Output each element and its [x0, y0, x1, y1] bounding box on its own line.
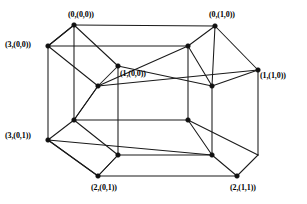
vertex-tr-inner	[186, 44, 191, 49]
edge-group-top-right-diamond	[188, 26, 258, 86]
edge-br-diag-a	[188, 120, 212, 155]
edge-group-top-left-diamond	[48, 25, 118, 86]
vertex-label-bottom-left: (2,(0,1))	[91, 183, 117, 192]
edge-tr-diag-c	[188, 46, 212, 86]
graph-drawing	[0, 0, 307, 204]
edge-br-diag-c	[212, 155, 237, 176]
edge-outer-top	[74, 25, 215, 26]
edge-connector-left-bottom	[48, 140, 212, 155]
vertex-bl-inner2	[116, 153, 121, 158]
vertex-left-upper	[46, 44, 51, 49]
vertex-label-center-inner: (1,(0,0))	[120, 69, 146, 78]
edge-group-bottom-left-diamond	[48, 120, 118, 176]
edge-tl-diag-c	[98, 66, 118, 86]
vertex-center-inner	[116, 64, 121, 69]
edge-tr-diag-a	[188, 26, 215, 46]
vertex-tl-inner	[96, 84, 101, 89]
edge-group-long-connectors	[48, 25, 258, 176]
vertex-label-top-right: (0,(1,0))	[209, 10, 235, 19]
vertex-bottom-left	[96, 174, 101, 179]
vertex-bl-inner	[72, 118, 77, 123]
edge-group-outer-frame	[48, 25, 258, 176]
vertex-bottom-right	[235, 174, 240, 179]
vertex-label-left-upper: (3,(0,0))	[5, 40, 31, 49]
edge-br-diag-b	[188, 120, 258, 155]
edge-tr-diag-b	[212, 26, 215, 86]
vertex-top-right	[213, 24, 218, 29]
vertex-label-top-left: (0,(0,0))	[68, 10, 94, 19]
figure-canvas: (0,(0,0)) (0,(1,0)) (3,(0,0)) (3,(0,1)) …	[0, 0, 307, 204]
edge-connector-mid	[74, 86, 98, 120]
edge-bl-diag-b	[74, 120, 118, 155]
vertex-br-inner	[186, 118, 191, 123]
edge-bl-diag-a	[48, 120, 74, 140]
edge-tl-diag-d	[48, 25, 74, 46]
edge-bl-diag-c	[48, 140, 98, 176]
edge-outer-right-upper	[215, 26, 258, 70]
vertex-top-left	[72, 23, 77, 28]
vertex-left-lower	[46, 138, 51, 143]
vertex-label-left-lower: (3,(0,1))	[5, 131, 31, 140]
vertex-tr-inner2	[210, 84, 215, 89]
vertex-br-inner2	[210, 153, 215, 158]
edge-connector-bottom-horiz	[98, 155, 118, 176]
vertex-label-right-inner: (1,(1,0))	[260, 71, 286, 80]
edge-group-bottom-right-diamond	[188, 120, 258, 176]
edge-br-diag-d	[237, 155, 258, 176]
edge-group-inner-rectangle	[74, 46, 212, 155]
vertex-label-bottom-right: (2,(1,1))	[230, 183, 256, 192]
edge-tl-diag-b	[48, 46, 98, 86]
edge-inner-top2	[98, 46, 188, 86]
